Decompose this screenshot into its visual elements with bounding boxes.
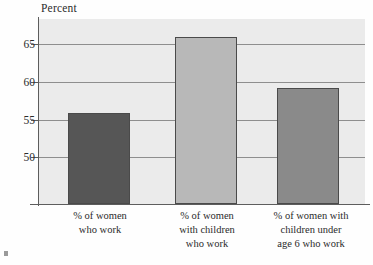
x-axis-line <box>30 204 370 205</box>
bar-women-children-under-6-who-work[interactable] <box>277 88 339 204</box>
page-scan-artifact <box>4 251 8 256</box>
bar-women-with-children-who-work[interactable] <box>175 37 237 205</box>
category-label-0: % of women who work <box>39 209 161 237</box>
y-axis-line <box>38 17 39 206</box>
category-label-0-line-1: who work <box>39 223 161 237</box>
y-tick-label-50: 50 <box>0 151 35 163</box>
bar-chart-figure: Percent 65 60 55 50 % of women who work … <box>0 0 373 265</box>
bar-women-who-work[interactable] <box>68 113 130 204</box>
y-tick-label-60: 60 <box>0 76 35 88</box>
category-label-2: % of women with children under age 6 who… <box>249 209 373 251</box>
y-tick-label-65: 65 <box>0 38 35 50</box>
y-tick-label-55: 55 <box>0 114 35 126</box>
category-label-2-line-0: % of women with <box>249 209 373 223</box>
y-axis-title: Percent <box>41 2 77 14</box>
category-label-2-line-2: age 6 who work <box>249 237 373 251</box>
category-label-0-line-0: % of women <box>39 209 161 223</box>
category-label-2-line-1: children under <box>249 223 373 237</box>
